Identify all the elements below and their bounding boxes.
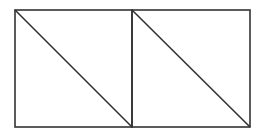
square-right	[132, 10, 250, 127]
diagonal-right	[132, 10, 250, 127]
square-left	[15, 10, 132, 127]
diagonal-left	[15, 10, 132, 127]
diagram-canvas	[0, 0, 268, 134]
